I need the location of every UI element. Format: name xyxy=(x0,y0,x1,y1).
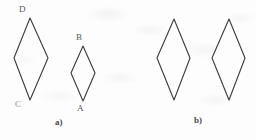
vertex-label-C: C xyxy=(15,100,21,109)
vertex-label-A: A xyxy=(77,104,84,113)
rhombus-b-right xyxy=(212,19,245,100)
rhombus-b-left xyxy=(157,19,190,100)
large-rhombus-DC xyxy=(14,18,48,100)
part-label-a: a) xyxy=(55,118,63,127)
geometry-figure: D C B A a) b) xyxy=(0,0,256,140)
vertex-label-D: D xyxy=(19,5,26,14)
part-label-b: b) xyxy=(194,116,202,125)
small-rhombus-BA xyxy=(71,46,95,101)
rhombus-shapes-layer xyxy=(0,0,256,140)
vertex-label-B: B xyxy=(76,33,82,42)
